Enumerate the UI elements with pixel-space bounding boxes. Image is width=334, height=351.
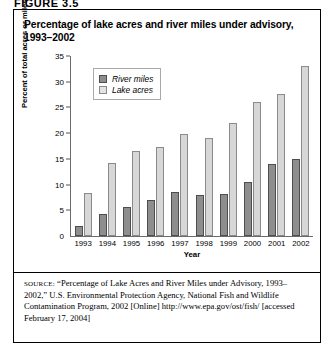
legend-item: Lake acres	[99, 84, 153, 95]
legend-swatch-icon	[99, 86, 107, 94]
bar-lake-acres	[156, 147, 164, 236]
x-axis-tick-label: 2002	[289, 237, 313, 248]
y-axis-tick-label: 25	[55, 103, 64, 112]
bar-river-miles	[99, 214, 107, 236]
y-axis-tick-label: 15	[55, 154, 64, 163]
bar-lake-acres	[205, 138, 213, 236]
bar-lake-acres	[229, 123, 237, 236]
x-axis-tick-label: 1997	[168, 237, 192, 248]
bar-river-miles	[196, 195, 204, 236]
y-axis-tick-label: 0	[60, 232, 64, 241]
bar-river-miles	[268, 164, 276, 236]
legend-item: River miles	[99, 73, 153, 84]
x-axis-tick-label: 2000	[240, 237, 264, 248]
bar-lake-acres	[301, 66, 309, 236]
bar-group	[192, 56, 216, 236]
x-axis-label: Year	[71, 250, 313, 259]
bar-group	[265, 56, 289, 236]
x-axis-tick-label: 2001	[265, 237, 289, 248]
legend-label: River miles	[112, 74, 153, 84]
y-axis-tick-label: 10	[55, 180, 64, 189]
x-axis-tick-label: 1998	[192, 237, 216, 248]
chart-title-line1: Percentage of lake acres and river miles…	[24, 19, 294, 30]
chart-title: Percentage of lake acres and river miles…	[24, 18, 309, 44]
x-axis-ticks: 1993199419951996199719981999200020012002	[71, 237, 313, 248]
chart-title-line2: 1993–2002	[24, 31, 309, 44]
x-axis-tick-label: 1996	[144, 237, 168, 248]
bar-group	[240, 56, 264, 236]
legend-swatch-icon	[99, 75, 107, 83]
bar-river-miles	[292, 159, 300, 236]
source-keyword: SOURCE:	[24, 280, 55, 288]
source-text: “Percentage of Lake Acres and River Mile…	[24, 278, 295, 323]
x-axis-tick-label: 1994	[95, 237, 119, 248]
bar-river-miles	[244, 182, 252, 236]
bar-lake-acres	[180, 134, 188, 236]
y-axis-label: Percent of total acres or miles	[20, 0, 29, 108]
chart-legend: River milesLake acres	[93, 68, 161, 100]
figure-frame: Percentage of lake acres and river miles…	[13, 9, 321, 343]
bar-river-miles	[75, 226, 83, 236]
bar-river-miles	[147, 200, 155, 237]
y-axis-tick-label: 5	[60, 206, 64, 215]
legend-label: Lake acres	[112, 85, 153, 95]
bar-group	[289, 56, 313, 236]
x-axis-tick-label: 1995	[119, 237, 143, 248]
bar-group	[168, 56, 192, 236]
y-axis-tick-label: 35	[55, 52, 64, 61]
bar-lake-acres	[253, 102, 261, 236]
y-axis-tick-label: 20	[55, 129, 64, 138]
bar-river-miles	[123, 207, 131, 236]
bar-group	[71, 56, 95, 236]
bar-lake-acres	[277, 94, 285, 236]
bar-lake-acres	[84, 193, 92, 236]
bar-group	[216, 56, 240, 236]
bar-river-miles	[171, 192, 179, 236]
source-divider	[14, 272, 320, 273]
source-note: SOURCE: “Percentage of Lake Acres and Ri…	[24, 278, 310, 324]
y-axis-tick-label: 30	[55, 77, 64, 86]
y-axis-ticks: 05101520253035	[36, 56, 70, 236]
bar-river-miles	[220, 194, 228, 236]
x-axis-tick-label: 1993	[71, 237, 95, 248]
bar-lake-acres	[108, 163, 116, 236]
bar-lake-acres	[132, 151, 140, 236]
x-axis-tick-label: 1999	[216, 237, 240, 248]
plot-area: Percent of total acres or miles 05101520…	[22, 56, 314, 256]
